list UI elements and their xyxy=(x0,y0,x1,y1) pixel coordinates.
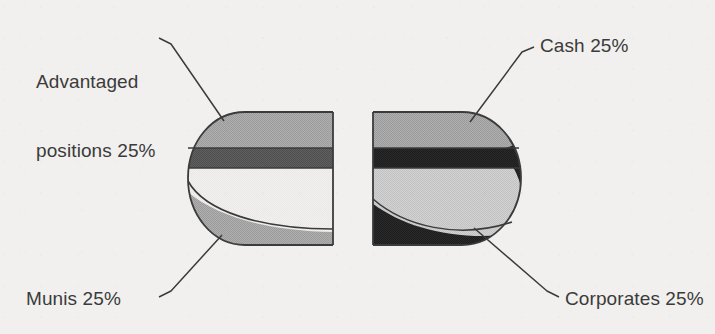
label-advantaged-positions: Advantaged positions 25% xyxy=(36,24,156,208)
label-advantaged-line2: positions 25% xyxy=(36,139,156,162)
leader-line-munis xyxy=(159,235,222,297)
label-cash: Cash 25% xyxy=(540,34,628,57)
pie-half-right xyxy=(366,105,528,252)
slice-advantaged-positions-side xyxy=(180,148,340,168)
label-advantaged-line1: Advantaged xyxy=(36,70,156,93)
pie-half-left xyxy=(180,105,340,250)
leader-line-corporates xyxy=(474,228,559,297)
leader-line-cash xyxy=(470,47,534,122)
exploded-pie-chart: Advantaged positions 25% Cash 25% Munis … xyxy=(0,0,715,334)
label-corporates: Corporates 25% xyxy=(565,287,704,310)
slice-munis xyxy=(180,168,340,250)
label-munis: Munis 25% xyxy=(26,287,121,310)
leader-line-advantaged xyxy=(159,38,224,121)
